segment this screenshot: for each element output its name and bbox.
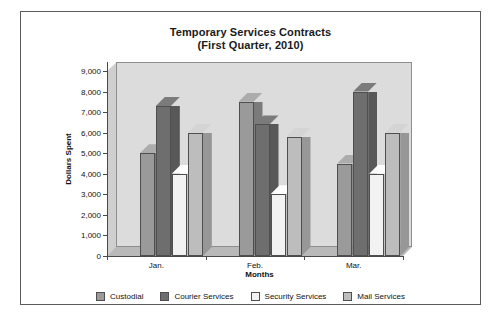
y-axis-tick-label: 9,000 — [81, 67, 101, 76]
legend-label: Mail Services — [357, 292, 405, 301]
y-axis-tick-label: 3,000 — [81, 190, 101, 199]
bar — [188, 133, 203, 256]
bar-side-face — [400, 133, 409, 256]
legend-item[interactable]: Mail Services — [343, 292, 405, 301]
chart-title-line-2: (First Quarter, 2010) — [21, 39, 480, 52]
bar — [337, 164, 352, 257]
x-axis-tick-mark — [304, 256, 305, 260]
bar — [353, 92, 368, 256]
y-axis-tick-label: 5,000 — [81, 149, 101, 158]
bar-front — [353, 92, 368, 256]
y-axis-tick-mark — [103, 235, 107, 236]
bar — [140, 153, 155, 256]
bar — [369, 174, 384, 256]
legend-label: Courier Services — [174, 292, 233, 301]
x-axis-line — [107, 256, 403, 257]
y-axis-tick-mark — [103, 153, 107, 154]
bar-front — [188, 133, 203, 256]
y-axis-tick-mark — [103, 112, 107, 113]
y-axis-tick-mark — [103, 174, 107, 175]
legend-label: Custodial — [110, 292, 143, 301]
bar-side-face — [203, 133, 212, 256]
bar — [172, 174, 187, 256]
legend-label: Security Services — [265, 292, 327, 301]
y-axis-line — [107, 62, 108, 256]
y-axis-tick-mark — [103, 71, 107, 72]
x-axis-tick-mark — [403, 256, 404, 260]
legend-swatch — [96, 292, 105, 301]
y-axis-tick-label: 6,000 — [81, 128, 101, 137]
y-axis-tick-label: 8,000 — [81, 87, 101, 96]
y-axis-tick-label: 4,000 — [81, 169, 101, 178]
bar-front — [337, 164, 352, 257]
chart-frame: Temporary Services Contracts (First Quar… — [20, 11, 481, 305]
chart-legend: CustodialCourier ServicesSecurity Servic… — [21, 292, 480, 301]
x-axis-tick-label: Mar. — [346, 261, 362, 270]
x-axis-tick-mark — [107, 256, 108, 260]
chart-title: Temporary Services Contracts (First Quar… — [21, 26, 480, 52]
legend-swatch — [160, 292, 169, 301]
bar-front — [156, 106, 171, 256]
legend-item[interactable]: Custodial — [96, 292, 143, 301]
x-axis-tick-mark — [206, 256, 207, 260]
x-axis-tick-label: Jan. — [149, 261, 164, 270]
y-axis-tick-mark — [103, 133, 107, 134]
bar-side-face — [302, 137, 311, 256]
bar-front — [172, 174, 187, 256]
bar-front — [140, 153, 155, 256]
bar — [239, 102, 254, 256]
y-axis-tick-label: 0 — [97, 252, 101, 261]
bar-front — [369, 174, 384, 256]
bar — [385, 133, 400, 256]
legend-item[interactable]: Courier Services — [160, 292, 233, 301]
bar-front — [287, 137, 302, 256]
legend-item[interactable]: Security Services — [251, 292, 327, 301]
bar-front — [255, 124, 270, 256]
bar — [255, 124, 270, 256]
bar — [156, 106, 171, 256]
bar-front — [385, 133, 400, 256]
x-axis-tick-label: Feb. — [247, 261, 263, 270]
y-axis-label: Dollars Spent — [64, 62, 73, 256]
y-axis-tick-mark — [103, 194, 107, 195]
bar — [271, 194, 286, 256]
bar — [287, 137, 302, 256]
legend-swatch — [251, 292, 260, 301]
x-axis-label: Months — [107, 270, 412, 279]
y-axis-tick-mark — [103, 215, 107, 216]
y-axis-tick-label: 1,000 — [81, 231, 101, 240]
plot-area: 9,0008,0007,0006,0005,0004,0003,0002,000… — [107, 62, 412, 256]
y-axis-tick-label: 7,000 — [81, 108, 101, 117]
bar-front — [271, 194, 286, 256]
legend-swatch — [343, 292, 352, 301]
y-axis-tick-mark — [103, 92, 107, 93]
bar-front — [239, 102, 254, 256]
chart-title-line-1: Temporary Services Contracts — [21, 26, 480, 39]
y-axis-tick-label: 2,000 — [81, 210, 101, 219]
